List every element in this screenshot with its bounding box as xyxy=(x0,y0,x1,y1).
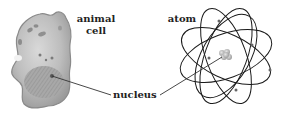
organelle xyxy=(51,57,54,60)
animal-cell-label: animal cell xyxy=(74,13,118,37)
organelle xyxy=(39,54,42,57)
vacuole xyxy=(14,55,22,61)
atom-label: atom xyxy=(167,13,197,25)
organelle xyxy=(18,39,22,45)
atom-nucleus xyxy=(219,49,232,60)
organelle xyxy=(34,24,39,28)
electron xyxy=(269,69,272,72)
organelle xyxy=(45,59,47,61)
animal-cell-label-line1: animal xyxy=(74,13,118,25)
organelle xyxy=(58,26,62,31)
nucleus-label: nucleus xyxy=(113,89,159,101)
electron xyxy=(251,44,254,47)
diagram-canvas xyxy=(0,0,287,121)
electron xyxy=(218,20,221,23)
cell-nucleus-texture xyxy=(24,66,64,98)
animal-cell-label-line2: cell xyxy=(74,25,118,37)
animal-cell-illustration xyxy=(12,12,71,108)
electron xyxy=(208,57,211,60)
electron xyxy=(235,89,238,92)
